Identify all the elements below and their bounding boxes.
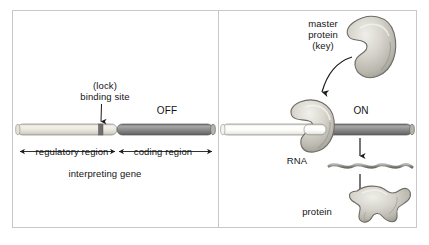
master-protein-label-line2: protein <box>308 29 338 40</box>
master-protein-label-line1: master <box>308 18 338 29</box>
state-label-off: OFF <box>157 105 177 116</box>
state-label-on: ON <box>353 105 368 116</box>
regulatory-region-label: regulatory region <box>36 146 109 157</box>
coding-region-label: coding region <box>134 146 192 157</box>
binding-site-label: binding site <box>80 91 129 102</box>
master-protein-label-line3: (key) <box>312 40 334 51</box>
panel-gene-off <box>12 10 218 228</box>
lock-label: (lock) <box>93 80 117 91</box>
figure-root: (lock) binding site OFF regulatory regio… <box>0 0 429 245</box>
protein-product-label: protein <box>302 206 332 217</box>
interpreting-gene-caption: interpreting gene <box>68 168 141 179</box>
rna-label: RNA <box>287 155 307 166</box>
